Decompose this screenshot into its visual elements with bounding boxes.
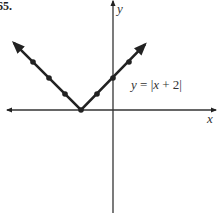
eq-rest: + 2	[159, 77, 179, 92]
data-point	[78, 107, 84, 113]
data-point	[126, 59, 132, 65]
data-point	[30, 59, 36, 65]
data-point	[46, 75, 52, 81]
x-axis-label: x	[206, 111, 213, 126]
problem-number: 65.	[0, 0, 12, 13]
y-axis-label: y	[115, 1, 123, 16]
graph-figure: 65. x y y = |x + 2|	[0, 0, 220, 213]
data-point	[62, 91, 68, 97]
data-point	[110, 75, 116, 81]
data-point	[94, 91, 100, 97]
eq-equals: =	[137, 77, 151, 92]
eq-bar-right: |	[179, 77, 182, 92]
data-points	[30, 59, 132, 113]
equation-label: y = |x + 2|	[129, 77, 182, 92]
absolute-value-graph	[14, 43, 145, 110]
